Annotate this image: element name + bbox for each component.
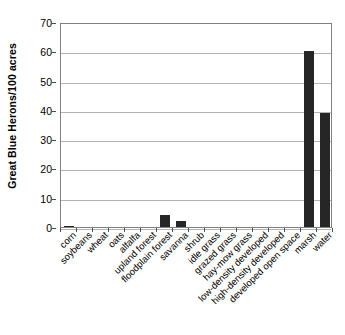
bar-slot bbox=[301, 24, 317, 227]
bar bbox=[304, 51, 314, 227]
bar-slot bbox=[141, 24, 157, 227]
bar bbox=[320, 113, 330, 227]
bar-slot bbox=[269, 24, 285, 227]
bar-slot bbox=[253, 24, 269, 227]
bar-slot bbox=[61, 24, 77, 227]
bars-layer bbox=[61, 24, 331, 227]
y-tick-mark bbox=[52, 23, 56, 24]
y-tick-label: 30 bbox=[24, 135, 52, 146]
y-tick-label: 10 bbox=[24, 193, 52, 204]
bar-chart: Great Blue Herons/100 acres 010203040506… bbox=[0, 0, 345, 335]
bar-slot bbox=[189, 24, 205, 227]
y-tick-label: 70 bbox=[24, 18, 52, 29]
bar bbox=[176, 221, 186, 227]
bar bbox=[64, 226, 74, 228]
y-axis-title-text: Great Blue Herons/100 acres bbox=[6, 43, 18, 189]
y-tick-label: 50 bbox=[24, 76, 52, 87]
x-axis-category-labels: cornsoybeanswheatoatsalfalfaupland fores… bbox=[0, 230, 345, 335]
y-tick-mark bbox=[52, 169, 56, 170]
y-axis-title: Great Blue Herons/100 acres bbox=[0, 0, 24, 232]
bar-slot bbox=[205, 24, 221, 227]
bar-slot bbox=[157, 24, 173, 227]
bar-slot bbox=[173, 24, 189, 227]
y-tick-mark bbox=[52, 52, 56, 53]
bar-slot bbox=[77, 24, 93, 227]
y-tick-mark bbox=[52, 140, 56, 141]
y-tick-mark bbox=[52, 199, 56, 200]
bar-slot bbox=[125, 24, 141, 227]
bar-slot bbox=[317, 24, 333, 227]
bar bbox=[160, 215, 170, 227]
bar-slot bbox=[93, 24, 109, 227]
bar-slot bbox=[285, 24, 301, 227]
y-tick-label: 20 bbox=[24, 164, 52, 175]
bar-slot bbox=[109, 24, 125, 227]
bar-slot bbox=[221, 24, 237, 227]
bar-slot bbox=[237, 24, 253, 227]
y-tick-label: 40 bbox=[24, 106, 52, 117]
y-tick-mark bbox=[52, 111, 56, 112]
plot-area bbox=[60, 23, 332, 228]
y-tick-label: 60 bbox=[24, 47, 52, 58]
y-tick-mark bbox=[52, 228, 56, 229]
y-tick-mark bbox=[52, 82, 56, 83]
